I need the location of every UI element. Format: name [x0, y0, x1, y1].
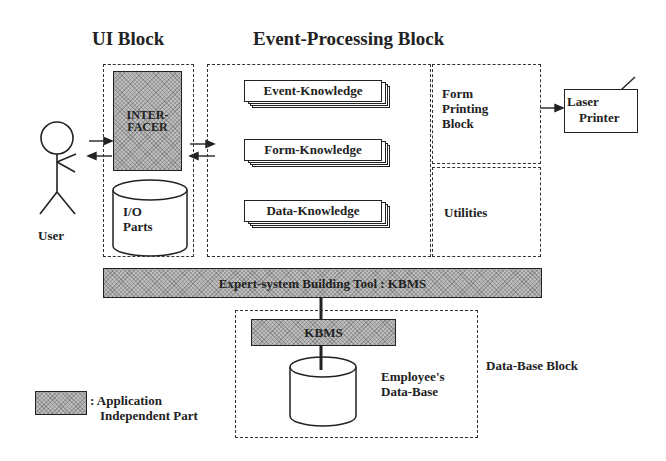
legend-label: : Application Independent Part — [90, 393, 198, 423]
legend-label-line2: Independent Part — [90, 408, 198, 423]
database-block-label: Data-Base Block — [486, 358, 578, 373]
kbms-label: KBMS — [304, 325, 342, 340]
legend-label-line1: : Application — [90, 393, 198, 408]
interfacer-label-line2: FACER — [127, 121, 167, 133]
form-knowledge-label: Form-Knowledge — [244, 139, 382, 161]
legend-swatch — [35, 391, 87, 415]
employee-database-label-line2: Data-Base — [381, 384, 445, 399]
form-printing-label-line1: Form — [442, 86, 488, 101]
printer-arrow — [540, 105, 563, 112]
employee-database-label-line1: Employee's — [381, 369, 445, 384]
io-parts-label-line1: I/O — [123, 204, 153, 219]
expert-system-building-tool-bar[interactable]: Expert-system Building Tool : KBMS — [103, 268, 542, 298]
laser-printer-label-line1: Laser — [567, 94, 599, 109]
utilities-label: Utilities — [444, 205, 487, 220]
event-knowledge-label: Event-Knowledge — [244, 80, 382, 102]
laser-printer-label-line2: Printer — [579, 110, 619, 125]
kbms-box[interactable]: KBMS — [251, 319, 396, 346]
employee-database-label: Employee's Data-Base — [381, 369, 445, 399]
form-printing-label-line3: Block — [442, 116, 488, 131]
data-knowledge-stack[interactable]: Data-Knowledge — [244, 200, 390, 224]
form-knowledge-stack[interactable]: Form-Knowledge — [244, 139, 390, 163]
form-printing-block-label: Form Printing Block — [442, 86, 488, 131]
event-knowledge-stack[interactable]: Event-Knowledge — [244, 80, 390, 104]
interfacer-box[interactable]: INTER- FACER — [113, 71, 182, 171]
data-knowledge-label: Data-Knowledge — [244, 200, 382, 222]
io-parts-label: I/O Parts — [123, 204, 153, 234]
user-label: User — [38, 228, 64, 243]
io-parts-label-line2: Parts — [123, 219, 153, 234]
form-printing-label-line2: Printing — [442, 101, 488, 116]
user-icon — [40, 122, 76, 214]
expert-system-tool-label: Expert-system Building Tool : KBMS — [219, 276, 426, 291]
laser-printer-box[interactable]: Laser Printer — [564, 89, 638, 133]
